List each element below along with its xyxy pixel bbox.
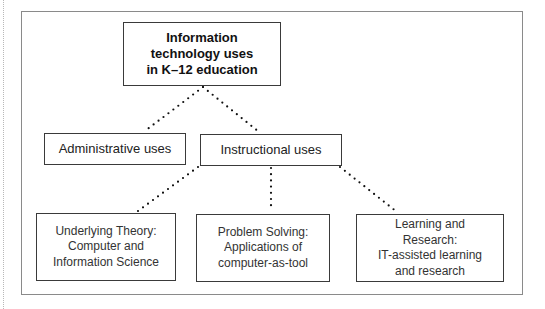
node-underlying-theory: Underlying Theory: Computer and Informat… (36, 213, 176, 281)
node-line: Problem Solving: (218, 225, 309, 241)
node-line: and research (378, 264, 482, 280)
root-node-line: technology uses (146, 46, 257, 62)
root-node-line: in K–12 education (146, 62, 257, 78)
node-label: Instructional uses (220, 142, 321, 158)
root-node: Information technology uses in K–12 educ… (123, 22, 281, 86)
node-label: Administrative uses (59, 141, 172, 157)
node-line: Applications of (218, 240, 309, 256)
node-line: IT-assisted learning (378, 248, 482, 264)
node-line: Research: (378, 233, 482, 249)
root-node-line: Information (146, 30, 257, 46)
node-instructional-uses: Instructional uses (200, 134, 342, 166)
node-line: Computer and (53, 239, 159, 255)
node-line: Information Science (53, 255, 159, 271)
node-line: computer-as-tool (218, 256, 309, 272)
node-line: Learning and (378, 217, 482, 233)
margin-rule (3, 0, 4, 309)
node-problem-solving: Problem Solving: Applications of compute… (196, 214, 330, 282)
node-line: Underlying Theory: (53, 224, 159, 240)
node-learning-research: Learning and Research: IT-assisted learn… (356, 214, 504, 282)
node-administrative-uses: Administrative uses (44, 133, 186, 165)
